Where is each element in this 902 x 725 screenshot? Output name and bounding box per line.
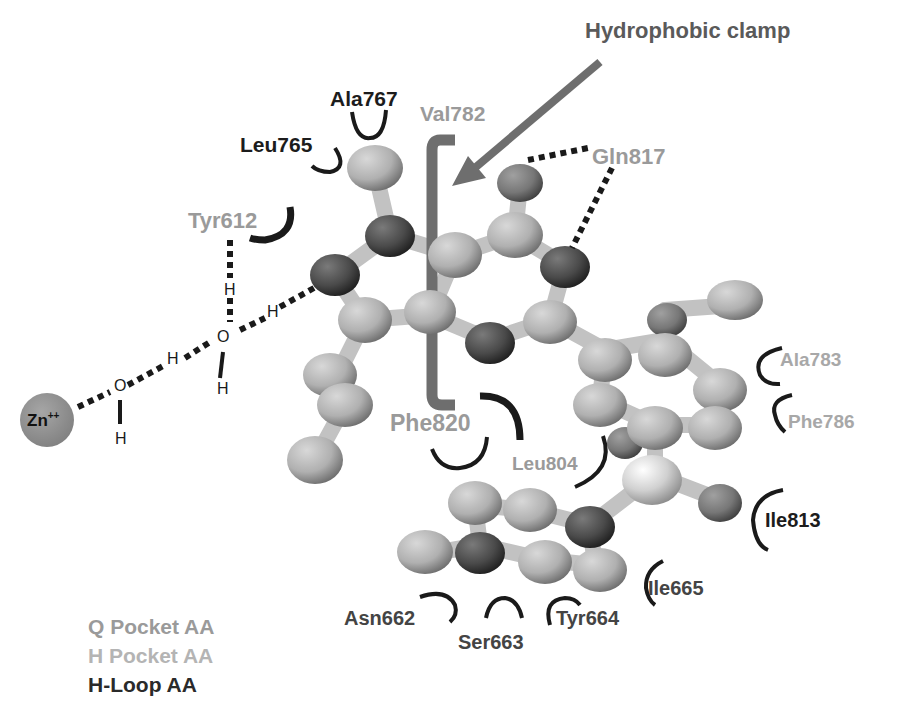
residue-asn662: Asn662 [344,608,415,628]
legend: Q Pocket AA H Pocket AA H-Loop AA [88,612,214,699]
water-hydrogen: H [267,303,279,321]
legend-h-pocket: H Pocket AA [88,641,214,670]
residue-val782: Val782 [420,103,485,124]
water-oxygen-2: O [114,377,126,395]
water-hydrogen: H [167,350,179,368]
water-oxygen-1: O [217,328,229,346]
clamp-title: Hydrophobic clamp [585,20,790,42]
clamp-arrow [470,62,600,172]
residue-tyr612: Tyr612 [188,210,257,232]
water-hydrogen: H [224,281,236,299]
water-hydrogen: H [217,380,229,398]
legend-q-pocket: Q Pocket AA [88,612,214,641]
residue-ala767: Ala767 [330,88,398,109]
residue-leu765: Leu765 [240,134,312,155]
zinc-charge: ++ [48,410,60,421]
residue-ala783: Ala783 [780,350,841,369]
binding-diagram: Hydrophobic clamp Ala767 Leu765 Val782 G… [0,0,902,725]
residue-gln817: Gln817 [592,146,665,168]
residue-ile813: Ile813 [765,510,821,530]
residue-phe786: Phe786 [788,412,855,431]
residue-leu804: Leu804 [512,454,577,473]
residue-phe820: Phe820 [390,412,471,435]
zinc-label: Zn++ [27,411,59,429]
residue-ile665: Ile665 [648,578,704,598]
water-hydrogen: H [115,430,127,448]
residue-tyr664: Tyr664 [556,608,619,628]
zinc-symbol: Zn [27,411,48,430]
legend-h-loop: H-Loop AA [88,670,214,699]
residue-ser663: Ser663 [458,632,524,652]
